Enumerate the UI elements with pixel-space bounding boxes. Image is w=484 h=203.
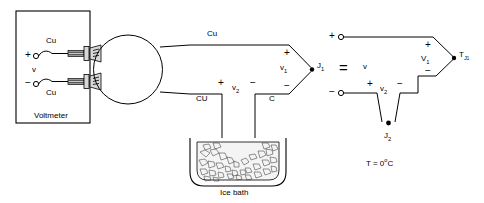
right-plus-sign: + xyxy=(329,31,335,41)
diagram-canvas xyxy=(0,0,484,203)
voltmeter-voltage-label: v xyxy=(32,66,36,74)
v2-subscript: 2 xyxy=(236,88,239,94)
V1-subscript: 1 xyxy=(426,59,429,65)
V1-plus-sign: + xyxy=(425,40,431,50)
right-v2-subscript: 2 xyxy=(384,89,387,95)
ice-bath-label: Ice bath xyxy=(220,189,248,197)
right-plus-terminal xyxy=(338,34,343,39)
right-minus-sign: − xyxy=(329,87,335,97)
right-source-voltage-label: v xyxy=(363,63,367,71)
right-v2-plus-sign: + xyxy=(367,79,373,89)
V1-minus-sign: − xyxy=(425,66,431,76)
thermocouple-diagram: + − v Cu Cu Voltmeter Cu + v1 − J1 CU + … xyxy=(0,0,484,203)
tj1-subsubscript: 1 xyxy=(467,56,470,61)
junction-j1-label: J1 xyxy=(317,62,324,72)
j1-subscript: 1 xyxy=(321,66,324,72)
right-minus-terminal xyxy=(338,90,343,95)
junction-j2-label: J2 xyxy=(384,132,391,142)
equals-sign: = xyxy=(339,60,348,75)
voltmeter-lower-lead-wire xyxy=(39,79,70,84)
voltmeter-label: Voltmeter xyxy=(34,112,68,120)
lead-lower-material-label: Cu xyxy=(46,89,56,97)
v2-minus-sign: − xyxy=(250,78,256,88)
voltmeter-plus-sign: + xyxy=(25,50,31,60)
right-upper-branch xyxy=(344,37,453,57)
right-v2-minus-sign: − xyxy=(397,79,403,89)
lower-cu-conductor-label: CU xyxy=(196,95,208,103)
v2-label: v2 xyxy=(232,84,239,94)
isothermal-block xyxy=(94,35,163,104)
lead-upper-material-label: Cu xyxy=(46,37,56,45)
binding-post-upper xyxy=(68,45,101,62)
voltmeter-minus-terminal xyxy=(33,81,38,86)
junction-j1-node xyxy=(310,67,314,71)
voltmeter-upper-lead-wire xyxy=(39,51,70,56)
j2-subscript: 2 xyxy=(388,136,391,142)
v1-subscript: 1 xyxy=(284,68,287,74)
top-conductor-label: Cu xyxy=(207,30,217,38)
junction-j2-node-right xyxy=(386,121,391,126)
v1-minus-sign: − xyxy=(284,81,290,91)
right-v2-label: v2 xyxy=(380,85,387,95)
temperature-value: T = 0 xyxy=(366,159,384,168)
voltmeter-plus-terminal xyxy=(33,53,38,58)
lower-c-conductor-label: C xyxy=(269,95,275,103)
v2-plus-sign: + xyxy=(218,78,224,88)
v1-label: v1 xyxy=(280,64,287,74)
v1-plus-sign: + xyxy=(284,48,290,58)
temperature-unit: C xyxy=(387,159,393,168)
junction-tj1-node xyxy=(452,56,456,60)
junction-tj1-label: TJ1 xyxy=(459,51,469,61)
voltmeter-box xyxy=(16,11,90,123)
temperature-label: T = 0oC xyxy=(366,158,393,168)
V1-label: V1 xyxy=(421,55,430,65)
right-lower-branch-left xyxy=(344,93,382,122)
voltmeter-minus-sign: − xyxy=(25,78,31,88)
right-lower-branch-right xyxy=(395,60,453,123)
lower-cu-conductor xyxy=(160,92,222,120)
lower-c-conductor xyxy=(255,72,311,121)
